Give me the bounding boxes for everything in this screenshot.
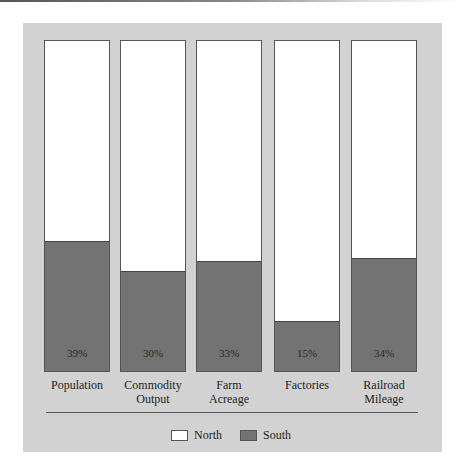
category-label-line1: Railroad: [339, 378, 429, 392]
south-segment: 33%: [197, 261, 261, 371]
legend: North South: [0, 428, 462, 443]
south-segment: 39%: [45, 241, 109, 371]
percent-label: 39%: [45, 347, 109, 359]
bar: 33%: [196, 40, 262, 372]
category-label-line2: Mileage: [339, 392, 429, 406]
category-label: FarmAcreage: [184, 378, 274, 406]
percent-label: 34%: [352, 347, 416, 359]
bar: 39%: [44, 40, 110, 372]
category-label-line2: Acreage: [184, 392, 274, 406]
legend-divider: [46, 412, 418, 413]
legend-south-label: South: [263, 428, 291, 443]
bar: 30%: [120, 40, 186, 372]
bar: 15%: [274, 40, 340, 372]
percent-label: 15%: [275, 347, 339, 359]
percent-label: 30%: [121, 347, 185, 359]
percent-label: 33%: [197, 347, 261, 359]
bar: 34%: [351, 40, 417, 372]
category-label-line1: Farm: [184, 378, 274, 392]
south-segment: 15%: [275, 321, 339, 372]
south-segment: 34%: [352, 258, 416, 371]
south-segment: 30%: [121, 271, 185, 371]
north-swatch-icon: [171, 430, 188, 441]
top-edge-line: [0, 0, 462, 2]
legend-north-label: North: [194, 428, 222, 443]
south-swatch-icon: [240, 430, 257, 441]
category-label: RailroadMileage: [339, 378, 429, 406]
